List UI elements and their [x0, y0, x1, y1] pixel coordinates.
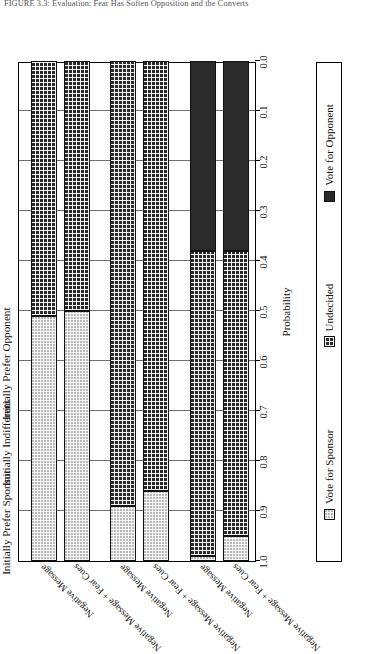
bar-segment: [110, 506, 136, 561]
axis-tick-label: 0.5: [258, 305, 269, 318]
bar-segment: [31, 61, 57, 316]
legend-label: Vote for Sponsor: [323, 430, 335, 504]
legend-item: Undecided: [323, 284, 335, 348]
bar-segment: [190, 61, 216, 251]
group-label: Initially Prefer Opponent: [0, 307, 12, 419]
plot-area: [18, 62, 256, 562]
axis-tick-label: 0.2: [258, 155, 269, 168]
bar-segment: [190, 556, 216, 561]
bar-segment: [223, 536, 249, 561]
legend-item: Vote for Opponent: [323, 104, 335, 202]
bar: [190, 61, 216, 561]
axis-tick-label: 0.9: [258, 505, 269, 518]
legend-item: Vote for Sponsor: [323, 430, 335, 520]
axis-tick-label: 0.6: [258, 355, 269, 368]
legend-swatch: [324, 337, 335, 348]
bar-segment: [31, 316, 57, 561]
category-label-column: Negative MessageNegative Message + Fear …: [18, 562, 256, 626]
legend-swatch: [324, 509, 335, 520]
bar: [143, 61, 169, 561]
axis-tick-label: 0.3: [258, 205, 269, 218]
legend-label: Vote for Opponent: [323, 104, 335, 186]
bar: [64, 61, 90, 561]
bar-segment: [223, 61, 249, 251]
bar-segment: [223, 251, 249, 536]
legend-label: Undecided: [323, 284, 335, 332]
bar-segment: [110, 61, 136, 506]
bar-segment: [143, 491, 169, 561]
axis-tick-label: 0.8: [258, 455, 269, 468]
group-label-row: Initially Prefer SponsorInitially Indiff…: [0, 324, 18, 562]
bar: [223, 61, 249, 561]
legend-swatch: [324, 191, 335, 202]
axis-tick-label-row: 1.00.90.80.70.60.50.40.30.20.10.0: [258, 62, 280, 562]
chart-legend: Vote for SponsorUndecidedVote for Oppone…: [316, 62, 342, 562]
axis-tick-label: 0.4: [258, 255, 269, 268]
bar: [31, 61, 57, 561]
axis-title-probability: Probability: [280, 62, 292, 562]
bar-segment: [64, 61, 90, 311]
axis-tick-label: 1.0: [258, 555, 269, 568]
bar-segment: [143, 61, 169, 491]
bar: [110, 61, 136, 561]
axis-tick-label: 0.7: [258, 405, 269, 418]
bar-segment: [64, 311, 90, 561]
axis-tick-label: 0.0: [258, 55, 269, 68]
axis-tick-label: 0.1: [258, 105, 269, 118]
bar-segment: [190, 251, 216, 556]
